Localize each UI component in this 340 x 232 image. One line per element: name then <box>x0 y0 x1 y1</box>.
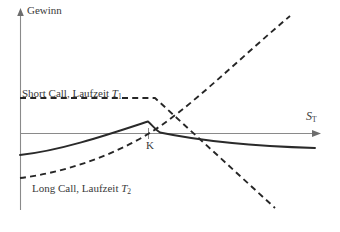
x-axis-label-subscript: T <box>312 115 317 124</box>
option-profit-diagram: Gewinn ST Short Call, Laufzeit T1 Long C… <box>0 0 340 232</box>
x-axis-arrowhead <box>312 130 321 137</box>
chart-canvas <box>0 0 340 232</box>
curve-calendar-spread <box>20 122 315 156</box>
short-call-label-text: Short Call, Laufzeit <box>22 87 112 99</box>
x-axis-label: ST <box>306 110 317 124</box>
short-call-label: Short Call, Laufzeit T1 <box>22 87 122 101</box>
y-axis-arrowhead <box>17 8 24 16</box>
short-call-label-subscript: 1 <box>118 92 122 101</box>
long-call-label-subscript: 2 <box>127 187 131 196</box>
y-axis-label: Gewinn <box>27 4 62 16</box>
long-call-label: Long Call, Laufzeit T2 <box>32 182 131 196</box>
strike-label: K <box>146 139 154 151</box>
long-call-label-text: Long Call, Laufzeit <box>32 182 121 194</box>
